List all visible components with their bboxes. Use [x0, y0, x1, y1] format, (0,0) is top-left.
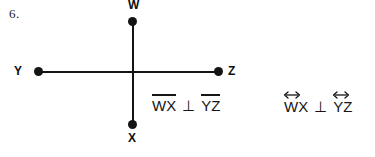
perpendicular-icon-line: ⊥ — [314, 99, 327, 115]
point-z-dot — [214, 67, 223, 76]
point-x-dot — [128, 120, 137, 129]
segment-yz — [38, 71, 219, 73]
perpendicular-lines-figure: W X Y Z — [0, 0, 240, 157]
overbar-mark-second — [201, 94, 220, 96]
double-arrow-icon-second — [331, 90, 351, 99]
segment-notation-second-label: YZ — [201, 98, 220, 113]
point-w-label: W — [128, 0, 139, 12]
line-notation: WX ⊥ YZ — [284, 90, 352, 115]
double-arrow-icon-first — [282, 90, 302, 99]
segment-notation-first-term: WX — [152, 93, 176, 114]
line-notation-second-label: YZ — [333, 99, 352, 114]
point-z-label: Z — [228, 64, 235, 78]
line-notation-first-label: WX — [284, 99, 308, 114]
segment-wx — [132, 22, 134, 125]
point-y-dot — [34, 67, 43, 76]
overbar-mark-first — [152, 94, 176, 96]
segment-notation-second-term: YZ — [201, 93, 220, 114]
perpendicular-icon: ⊥ — [182, 98, 195, 114]
point-x-label: X — [128, 131, 136, 145]
worksheet-figure-panel: 6. W X Y Z WX ⊥ YZ WX — [0, 0, 375, 157]
point-y-label: Y — [14, 64, 22, 78]
line-notation-first-term: WX — [284, 90, 308, 115]
segment-notation-first-label: WX — [152, 98, 176, 113]
segment-notation: WX ⊥ YZ — [152, 93, 220, 114]
point-w-dot — [128, 17, 137, 26]
line-notation-second-term: YZ — [333, 90, 352, 115]
